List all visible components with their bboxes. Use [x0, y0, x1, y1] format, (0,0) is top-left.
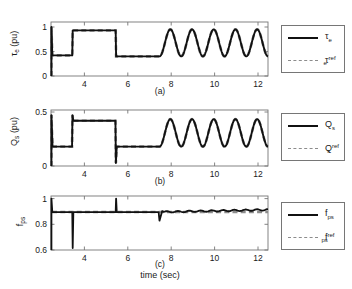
legend-label-tau-e-ref: τrefe	[325, 55, 327, 67]
subplot-b-data	[51, 115, 268, 166]
legend-row-tau-e: τe	[282, 26, 344, 49]
subplot-c: fps 0.6 0.8 1 4 6 8 10 12	[0, 188, 352, 289]
subplot-a-legend: τe τrefe	[281, 25, 345, 73]
legend-label-fps-ref: frefps	[325, 232, 328, 244]
subplot-b-xtick-0: 4	[82, 169, 87, 179]
legend-row-fps-ref: frefps	[282, 226, 344, 249]
subplot-b-xtick-4: 12	[253, 169, 263, 179]
legend-row-qs-ref: Qrefs	[282, 137, 344, 160]
subplot-b-tag: (b)	[130, 176, 190, 186]
legend-row-qs: Qs	[282, 114, 344, 137]
solid-line-icon	[288, 33, 318, 43]
subplot-a: τe (pu) 0 0.5 1 4	[0, 8, 352, 96]
subplot-c-xtick-3: 10	[210, 253, 220, 263]
subplot-c-xtick-4: 12	[253, 253, 263, 263]
subplot-c-legend: fps frefps	[281, 202, 345, 250]
subplot-a-xtick-4: 12	[253, 79, 263, 89]
legend-label-fps: fps	[325, 209, 334, 220]
subplot-a-ytick-0: 0	[42, 71, 47, 81]
solid-line-icon	[288, 121, 318, 131]
legend-row-fps: fps	[282, 203, 344, 226]
legend-label-qs-ref: Qrefs	[325, 143, 330, 155]
subplot-a-data	[51, 27, 268, 76]
subplot-a-tag: (a)	[130, 86, 190, 96]
subplot-b-ytick-1: 0.5	[35, 107, 47, 117]
subplot-a-ytick-1: 0.5	[35, 47, 47, 57]
solid-line-icon	[288, 210, 318, 220]
subplot-a-xtick-3: 10	[210, 79, 220, 89]
subplot-c-ytick-1: 0.8	[35, 219, 47, 229]
figure-panel: τe (pu) 0 0.5 1 4	[0, 0, 352, 289]
subplot-c-xtick-0: 4	[82, 253, 87, 263]
subplot-c-ytick-0: 0.6	[35, 245, 47, 255]
dashed-line-icon	[288, 233, 318, 243]
legend-label-tau-e: τe	[325, 32, 332, 43]
subplot-b-xtick-3: 10	[210, 169, 220, 179]
subplot-a-ytick-2: 1	[42, 22, 47, 32]
legend-row-tau-e-ref: τrefe	[282, 49, 344, 72]
subplot-b-legend: Qs Qrefs	[281, 113, 345, 161]
subplot-a-xtick-0: 4	[82, 79, 87, 89]
figure-xlabel: time (sec)	[100, 270, 220, 280]
subplot-c-tag: (c)	[130, 259, 190, 269]
subplot-c-ytick-2: 1	[42, 194, 47, 204]
legend-label-qs: Qs	[325, 120, 335, 131]
subplot-c-data	[51, 199, 268, 250]
dashed-line-icon	[288, 56, 318, 66]
subplot-b: Qs (pu) 0 0.5 4 6 8 10 12	[0, 98, 352, 186]
dashed-line-icon	[288, 144, 318, 154]
subplot-b-ytick-0: 0	[42, 161, 47, 171]
